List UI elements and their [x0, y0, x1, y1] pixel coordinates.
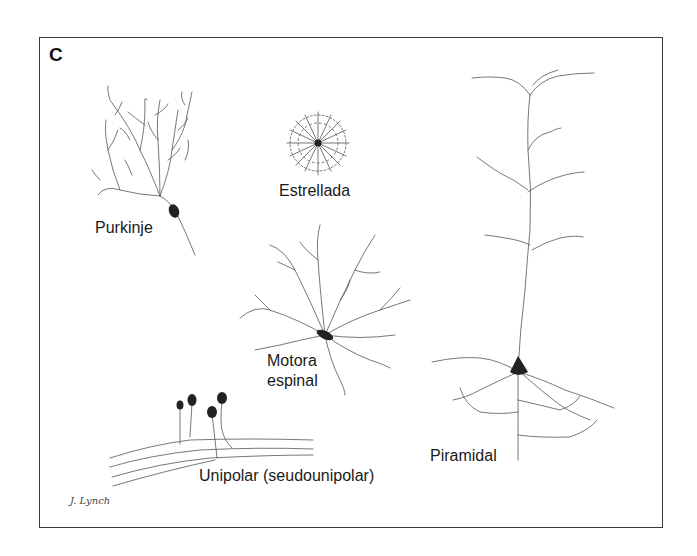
unipolar-soma-3: [207, 406, 217, 418]
piramidal-neuron: [432, 70, 614, 460]
purkinje-soma: [167, 203, 181, 220]
unipolar-soma-1: [177, 401, 184, 410]
label-motora-line2: espinal: [267, 371, 318, 390]
label-motora-line1: Motora: [267, 351, 317, 370]
label-estrellada: Estrellada: [279, 181, 350, 200]
motora-espinal-neuron: [240, 225, 410, 395]
estrellada-soma: [315, 140, 322, 147]
label-piramidal: Piramidal: [430, 446, 497, 465]
piramidal-soma: [510, 356, 528, 375]
artist-signature: J. Lynch: [70, 495, 110, 506]
unipolar-soma-4: [217, 392, 227, 404]
label-purkinje: Purkinje: [95, 218, 153, 237]
label-unipolar: Unipolar (seudounipolar): [199, 466, 374, 485]
unipolar-soma-2: [188, 394, 197, 406]
